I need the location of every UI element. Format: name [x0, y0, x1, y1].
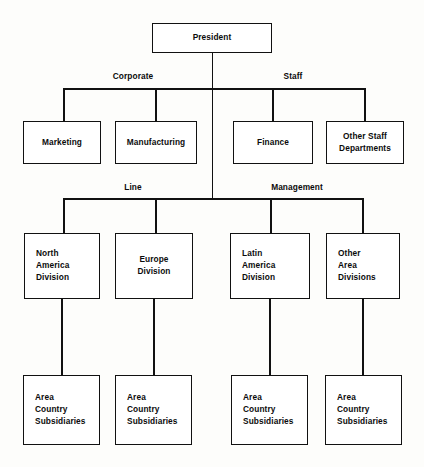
- node-other-staff-departments-label: Other Staff Departments: [339, 131, 391, 155]
- edge-bar-staff-level: [63, 88, 365, 90]
- edge-drop-other-areas: [362, 198, 364, 233]
- node-other-area-divisions-label: Other Area Divisions: [327, 248, 376, 283]
- node-subsidiaries-north-america[interactable]: Area Country Subsidiaries: [23, 375, 100, 445]
- node-latin-america-division-label: Latin America Division: [231, 248, 275, 283]
- edge-drop-north-america: [63, 198, 65, 233]
- node-other-staff-departments[interactable]: Other Staff Departments: [326, 121, 404, 164]
- node-manufacturing[interactable]: Manufacturing: [115, 121, 197, 164]
- tier-label-management: Management: [268, 182, 326, 192]
- node-subsidiaries-europe[interactable]: Area Country Subsidiaries: [115, 375, 192, 445]
- node-finance-label: Finance: [257, 137, 289, 149]
- edge-president-spine: [212, 53, 214, 199]
- node-latin-america-division[interactable]: Latin America Division: [230, 233, 310, 299]
- node-marketing-label: Marketing: [42, 137, 82, 149]
- node-north-america-division[interactable]: North America Division: [24, 233, 100, 299]
- edge-latin-america-to-subsidiaries: [269, 299, 271, 375]
- node-europe-division[interactable]: Europe Division: [115, 233, 193, 299]
- node-subsidiaries-other-areas-label: Area Country Subsidiaries: [326, 392, 388, 427]
- edge-drop-other-staff: [364, 88, 366, 121]
- node-subsidiaries-latin-america-label: Area Country Subsidiaries: [232, 392, 294, 427]
- node-subsidiaries-north-america-label: Area Country Subsidiaries: [24, 392, 86, 427]
- edge-drop-europe: [155, 198, 157, 233]
- node-north-america-division-label: North America Division: [25, 248, 69, 283]
- edge-drop-manufacturing: [155, 88, 157, 121]
- node-president[interactable]: President: [152, 23, 272, 53]
- tier-label-line: Line: [121, 182, 144, 192]
- node-other-area-divisions[interactable]: Other Area Divisions: [326, 233, 400, 299]
- edge-drop-latin-america: [270, 198, 272, 233]
- edge-north-america-to-subsidiaries: [61, 299, 63, 375]
- edge-other-areas-to-subsidiaries: [362, 299, 364, 375]
- node-subsidiaries-other-areas[interactable]: Area Country Subsidiaries: [325, 375, 402, 445]
- edge-bar-line-level: [63, 198, 363, 200]
- node-finance[interactable]: Finance: [233, 121, 313, 164]
- tier-label-staff: Staff: [281, 71, 306, 81]
- tier-label-corporate: Corporate: [110, 71, 157, 81]
- node-marketing[interactable]: Marketing: [23, 121, 101, 164]
- edge-drop-finance: [272, 88, 274, 121]
- node-subsidiaries-latin-america[interactable]: Area Country Subsidiaries: [231, 375, 308, 445]
- edge-europe-to-subsidiaries: [153, 299, 155, 375]
- node-manufacturing-label: Manufacturing: [127, 137, 185, 149]
- node-subsidiaries-europe-label: Area Country Subsidiaries: [116, 392, 178, 427]
- edge-drop-marketing: [63, 88, 65, 121]
- org-chart-diagram: President Corporate Staff Marketing Manu…: [0, 0, 424, 467]
- node-europe-division-label: Europe Division: [137, 254, 170, 278]
- node-president-label: President: [193, 32, 232, 44]
